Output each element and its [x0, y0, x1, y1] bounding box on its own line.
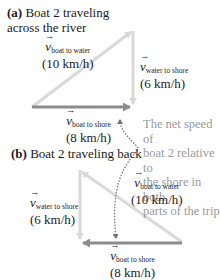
vector-arrow-icon: →: [140, 50, 149, 63]
vector-symbol: →v: [140, 59, 146, 74]
label-a-boat-to-shore: →vboat to shore (8 km/h): [66, 114, 111, 145]
vector-arrow-icon: →: [30, 186, 39, 199]
part-a-title: (a) Boat 2 traveling across the river: [7, 5, 109, 35]
part-a-letter: (a): [7, 5, 22, 20]
label-b-boat-to-water: →vboat to water (10 km/h): [131, 176, 183, 207]
label-b-boat-to-shore: →vboat to shore (8 km/h): [110, 249, 155, 280]
part-a-title-line1: Boat 2 traveling: [22, 5, 109, 20]
part-b-letter: (b): [11, 146, 27, 161]
vector-symbol: →v: [30, 195, 36, 210]
callout-arrow-to-a: [120, 120, 138, 148]
vector-symbol: →v: [66, 113, 72, 128]
part-b-title-text: Boat 2 traveling back: [27, 146, 142, 161]
vector-symbol: →v: [134, 175, 140, 190]
part-b-title: (b) Boat 2 traveling back: [11, 146, 142, 161]
label-a-boat-to-water: →vboat to water (10 km/h): [42, 40, 94, 71]
label-b-water-to-shore: →vwater to shore (6 km/h): [30, 196, 78, 227]
label-a-water-to-shore: →vwater to shore (6 km/h): [140, 60, 188, 91]
vector-arrow-icon: →: [110, 239, 119, 252]
vector-arrow-icon: →: [134, 166, 143, 179]
vector-symbol: →v: [110, 248, 116, 263]
vector-symbol: →v: [45, 39, 51, 54]
vector-arrow-icon: →: [45, 30, 54, 43]
vector-arrow-icon: →: [66, 104, 75, 117]
